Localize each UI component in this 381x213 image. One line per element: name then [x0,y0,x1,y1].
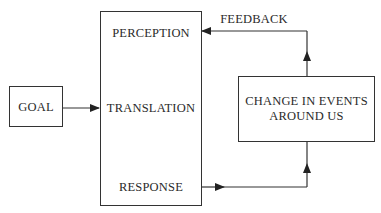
change-events-line2: AROUND US [238,109,375,124]
goal-label: GOAL [9,100,63,115]
perception-label: PERCEPTION [100,26,202,41]
translation-label: TRANSLATION [100,101,202,116]
response-label: RESPONSE [100,180,202,195]
feedback-label: FEEDBACK [218,12,290,27]
change-events-line1: CHANGE IN EVENTS [238,94,375,109]
